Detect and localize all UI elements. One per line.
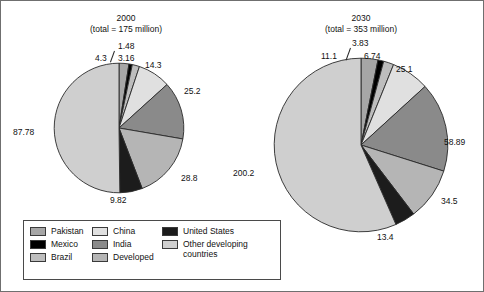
legend-swatch-pakistan <box>30 227 46 236</box>
slice-label-pakistan-2030: 11.1 <box>321 52 337 62</box>
leader-line-mexico-2000 <box>110 51 115 63</box>
pie-slice-other-developing-countries <box>54 63 120 193</box>
legend-swatch-china <box>92 227 108 236</box>
legend-item-pakistan: Pakistan <box>30 226 92 236</box>
chart-title-right-year: 2030 <box>296 13 426 24</box>
legend-item-china: China <box>92 226 162 236</box>
pie-chart-2030 <box>273 57 449 233</box>
legend-label-india: India <box>113 239 131 249</box>
slice-label-united-states-2030: 13.4 <box>377 233 394 243</box>
pie-chart-2030-svg <box>273 57 449 233</box>
legend-swatch-india <box>92 240 108 249</box>
slice-label-united-states-2000: 9.82 <box>110 196 127 206</box>
legend-item-united-states: United States <box>162 226 274 236</box>
slice-label-developed-2000: 28.8 <box>181 174 198 184</box>
legend-item-other-developing-countries: Other developing countries <box>162 239 274 262</box>
slice-label-developed-2030: 34.5 <box>441 197 458 207</box>
slice-label-china-2030: 25.1 <box>396 65 413 75</box>
chart-title-left-year: 2000 <box>61 13 191 24</box>
legend: Pakistan China United States Mexico Indi… <box>23 220 281 280</box>
legend-label-united-states: United States <box>183 226 234 236</box>
slice-label-other-developing-2000: 87.78 <box>13 128 34 138</box>
slice-label-brazil-2030: 6.74 <box>364 52 381 62</box>
legend-item-india: India <box>92 239 162 249</box>
slice-label-india-2030: 58.89 <box>444 138 465 148</box>
pie-chart-2000 <box>53 62 185 194</box>
legend-label-developed: Developed <box>113 252 154 262</box>
legend-item-mexico: Mexico <box>30 239 92 249</box>
chart-title-left-total: (total = 175 million) <box>61 24 191 35</box>
chart-title-right: 2030 (total = 353 million) <box>296 13 426 34</box>
legend-label-brazil: Brazil <box>51 252 72 262</box>
chart-title-left: 2000 (total = 175 million) <box>61 13 191 34</box>
legend-swatch-other-developing-countries <box>162 240 178 249</box>
legend-label-pakistan: Pakistan <box>51 226 84 236</box>
legend-grid: Pakistan China United States Mexico Indi… <box>30 226 276 262</box>
slice-label-brazil-2000: 3.16 <box>118 54 135 64</box>
legend-label-mexico: Mexico <box>51 239 78 249</box>
slice-label-other-developing-2030: 200.2 <box>233 169 254 179</box>
chart-title-right-total: (total = 353 million) <box>296 24 426 35</box>
legend-swatch-united-states <box>162 227 178 236</box>
slice-label-china-2000: 14.3 <box>145 61 162 71</box>
legend-item-developed: Developed <box>92 252 162 262</box>
legend-swatch-brazil <box>30 253 46 262</box>
slice-label-mexico-2030: 3.83 <box>352 39 369 49</box>
chart-figure: 2000 (total = 175 million) 4.3 1.48 3.16… <box>0 0 484 292</box>
legend-swatch-developed <box>92 253 108 262</box>
legend-label-china: China <box>113 226 135 236</box>
legend-swatch-mexico <box>30 240 46 249</box>
legend-label-other-developing-countries: Other developing countries <box>183 239 271 259</box>
slice-label-india-2000: 25.2 <box>184 87 201 97</box>
legend-item-brazil: Brazil <box>30 252 92 262</box>
pie-chart-2000-svg <box>53 62 185 194</box>
slice-label-mexico-2000: 1.48 <box>118 42 135 52</box>
slice-label-pakistan-2000: 4.3 <box>95 54 107 64</box>
